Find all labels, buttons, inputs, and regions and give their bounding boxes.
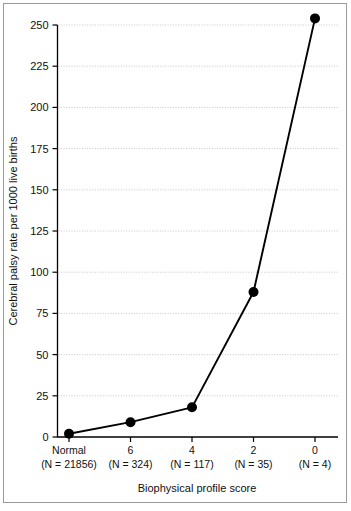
chart-figure: 0255075100125150175200225250 Normal(N = …: [0, 0, 351, 511]
x-category-label: 2: [251, 444, 257, 456]
x-axis-category-labels: Normal(N = 21856)6(N = 324)4(N = 117)2(N…: [41, 444, 331, 470]
x-category-count-label: (N = 35): [234, 458, 272, 470]
y-tick-label: 225: [30, 60, 48, 72]
x-axis-ticks: [69, 437, 315, 442]
y-tick-label: 125: [30, 225, 48, 237]
y-axis-ticks: 0255075100125150175200225250: [30, 19, 57, 443]
data-point: [64, 429, 74, 439]
line-chart: 0255075100125150175200225250 Normal(N = …: [0, 0, 351, 511]
y-tick-label: 75: [36, 307, 48, 319]
x-category-label: 0: [312, 444, 318, 456]
x-category-count-label: (N = 21856): [41, 458, 97, 470]
y-axis-title: Cerebral palsy rate per 1000 live births: [7, 136, 19, 325]
y-tick-label: 250: [30, 19, 48, 31]
x-category-label: 6: [128, 444, 134, 456]
x-category-count-label: (N = 117): [170, 458, 213, 470]
data-point: [187, 402, 197, 412]
gridlines: [59, 25, 339, 396]
y-tick-label: 0: [42, 431, 48, 443]
data-point: [249, 287, 259, 297]
data-point: [126, 417, 136, 427]
y-tick-label: 50: [36, 349, 48, 361]
x-category-count-label: (N = 324): [108, 458, 152, 470]
y-tick-label: 150: [30, 184, 48, 196]
y-tick-label: 25: [36, 390, 48, 402]
data-series-line: [69, 18, 315, 433]
data-points: [64, 13, 320, 438]
y-tick-label: 175: [30, 143, 48, 155]
x-category-count-label: (N = 4): [299, 458, 331, 470]
y-tick-label: 100: [30, 266, 48, 278]
x-category-label: 4: [189, 444, 195, 456]
data-point: [310, 13, 320, 23]
x-axis-title: Biophysical profile score: [138, 482, 257, 494]
x-category-label: Normal: [52, 444, 86, 456]
y-tick-label: 200: [30, 101, 48, 113]
